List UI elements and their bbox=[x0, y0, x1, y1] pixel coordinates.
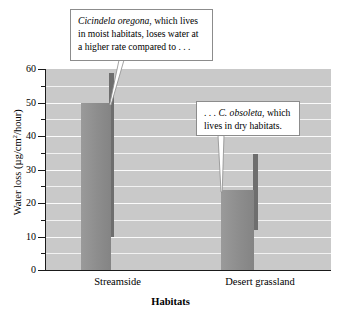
callout-1-species: Cicindela oregona bbox=[78, 15, 149, 26]
x-axis-line bbox=[45, 270, 331, 271]
ytick-major-30 bbox=[38, 170, 46, 171]
ytick-major-10 bbox=[38, 237, 46, 238]
ytick-major-40 bbox=[38, 136, 46, 137]
bar-desert-grassland bbox=[221, 190, 254, 270]
y-axis-title-main: Water loss (µg/cm bbox=[12, 138, 23, 215]
bar-streamside bbox=[81, 103, 111, 271]
category-label-desert-grassland: Desert grassland bbox=[189, 276, 331, 287]
bar-chart-figure: 60 50 40 30 20 10 0 Water loss (µg/cm2/h… bbox=[0, 0, 341, 318]
ytick-major-50 bbox=[38, 103, 46, 104]
callout-c-obsoleta: . . . C. obsoleta, which lives in dry ha… bbox=[196, 101, 300, 136]
callout-2-pointer bbox=[216, 135, 236, 192]
ytick-minor-55 bbox=[41, 86, 46, 87]
y-axis-title: Water loss (µg/cm2/hour) bbox=[11, 62, 24, 262]
plot-area bbox=[46, 69, 331, 270]
y-axis-title-tail: /hour) bbox=[12, 109, 23, 135]
ytick-minor-25 bbox=[41, 186, 46, 187]
ytick-major-0 bbox=[38, 270, 46, 271]
callout-cicindela-oregona: Cicindela oregona, which lives in moist … bbox=[70, 9, 213, 61]
ytick-major-60 bbox=[38, 69, 46, 70]
category-label-streamside: Streamside bbox=[46, 276, 189, 287]
callout-1-pointer bbox=[108, 60, 130, 105]
ytick-minor-45 bbox=[41, 119, 46, 120]
callout-2-lead: . . . bbox=[204, 107, 218, 118]
ytick-label-0: 0 bbox=[2, 265, 36, 275]
ytick-minor-15 bbox=[41, 220, 46, 221]
x-axis-title: Habitats bbox=[0, 296, 341, 307]
ytick-minor-5 bbox=[41, 253, 46, 254]
y-axis-title-superscript: 2 bbox=[11, 135, 19, 139]
gridline-55 bbox=[46, 86, 331, 87]
ytick-minor-35 bbox=[41, 153, 46, 154]
ytick-major-20 bbox=[38, 203, 46, 204]
callout-2-species: C. obsoleta bbox=[218, 107, 262, 118]
